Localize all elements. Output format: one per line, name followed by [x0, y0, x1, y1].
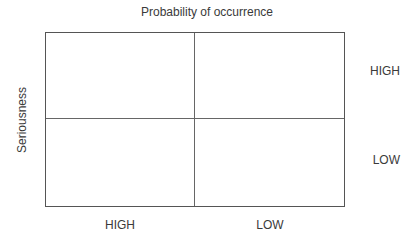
horizontal-divider [46, 118, 344, 119]
vertical-divider [194, 33, 195, 206]
y-axis-title: Seriousness [15, 87, 29, 153]
row-label-low: LOW [373, 153, 400, 167]
row-label-high: HIGH [370, 64, 400, 78]
column-label-low: LOW [256, 218, 283, 232]
x-axis-title: Probability of occurrence [0, 5, 414, 19]
column-label-high: HIGH [105, 218, 135, 232]
risk-matrix-grid [45, 32, 345, 207]
